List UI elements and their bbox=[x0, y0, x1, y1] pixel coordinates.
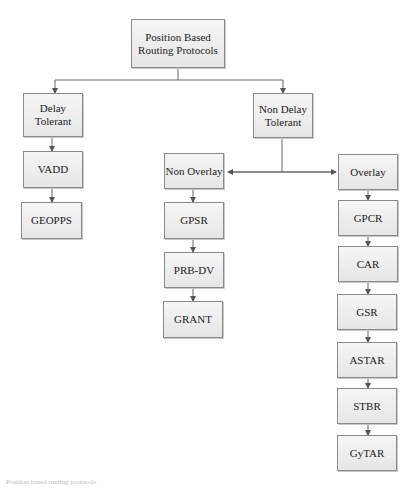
node-gpsr: GPSR bbox=[164, 202, 224, 239]
node-label: Non Overlay bbox=[165, 165, 222, 178]
node-prb-dv: PRB-DV bbox=[164, 252, 224, 288]
node-car: CAR bbox=[338, 246, 398, 282]
node-label: ASTAR bbox=[349, 354, 384, 367]
node-label: Overlay bbox=[350, 166, 385, 179]
node-label: Non Delay Tolerant bbox=[258, 103, 308, 129]
node-label: PRB-DV bbox=[174, 264, 214, 277]
node-geopps: GEOPPS bbox=[21, 202, 82, 239]
node-label: CAR bbox=[357, 258, 380, 271]
node-vadd: VADD bbox=[23, 151, 83, 188]
node-non-overlay: Non Overlay bbox=[164, 153, 224, 189]
node-label: GSR bbox=[356, 306, 377, 319]
node-gytar: GyTAR bbox=[337, 435, 397, 471]
node-label: GyTAR bbox=[350, 447, 385, 460]
node-astar: ASTAR bbox=[337, 342, 397, 378]
node-stbr: STBR bbox=[337, 388, 397, 424]
node-gpcr: GPCR bbox=[338, 200, 398, 236]
node-label: GRANT bbox=[174, 313, 212, 326]
node-label: VADD bbox=[38, 163, 68, 176]
node-delay-tolerant: Delay Tolerant bbox=[23, 93, 83, 137]
node-label: GPSR bbox=[180, 214, 208, 227]
node-non-delay-tolerant: Non Delay Tolerant bbox=[253, 93, 313, 138]
node-root: Position Based Routing Protocols bbox=[131, 19, 225, 68]
node-overlay: Overlay bbox=[338, 154, 398, 190]
node-label: STBR bbox=[353, 400, 381, 413]
figure-caption: Position based routing protocols bbox=[6, 478, 96, 486]
node-label: Delay Tolerant bbox=[31, 102, 75, 128]
node-grant: GRANT bbox=[163, 301, 223, 338]
node-label: Position Based Routing Protocols bbox=[138, 31, 218, 57]
node-label: GEOPPS bbox=[31, 214, 72, 227]
node-gsr: GSR bbox=[337, 294, 397, 330]
node-label: GPCR bbox=[354, 212, 383, 225]
